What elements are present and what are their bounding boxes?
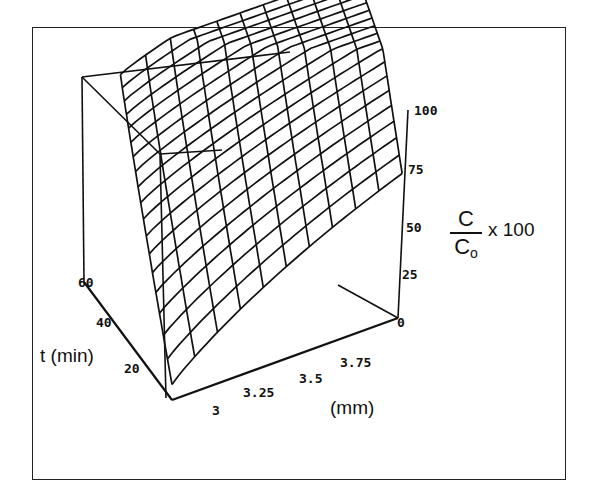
y-tick-20: 20 [124, 362, 140, 375]
x-tick-3: 3 [212, 404, 220, 417]
box-right-vertical [398, 110, 408, 318]
z-tick-25: 25 [402, 268, 418, 281]
z-tick-0: 0 [397, 316, 405, 329]
x-tick-3-75: 3.75 [340, 356, 371, 369]
z-axis-title-suffix: x 100 [488, 219, 534, 241]
box-front-vertical [160, 154, 166, 398]
z-axis-title-fraction: C Co [448, 208, 484, 264]
box-front-top-edge [160, 150, 222, 154]
surface-mesh [120, 0, 402, 384]
y-tick-60: 60 [78, 276, 94, 289]
box-left-back-vertical [82, 77, 84, 282]
y-axis-title: t (min) [40, 346, 94, 365]
z-tick-75: 75 [408, 163, 424, 176]
y-tick-40: 40 [96, 316, 112, 329]
surface-plot [0, 0, 592, 503]
box-bottom-left-edge [84, 282, 172, 400]
z-tick-100: 100 [414, 104, 437, 117]
x-tick-3-25: 3.25 [243, 386, 274, 399]
z-tick-50: 50 [406, 221, 422, 234]
x-axis-title: (mm) [330, 398, 374, 417]
x-tick-3-5: 3.5 [299, 372, 322, 385]
z-axis-denominator: Co [448, 236, 484, 264]
box-floor-diagonal [338, 285, 398, 318]
z-axis-numerator: C [448, 208, 484, 230]
